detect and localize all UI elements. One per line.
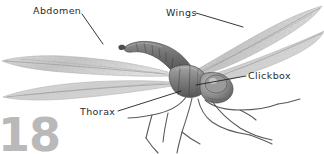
abdomen-leader [82, 14, 103, 44]
label-clickbox: Clickbox [248, 71, 291, 81]
label-wings: Wings [166, 8, 197, 18]
legs [128, 97, 300, 153]
label-abdomen: Abdomen [33, 6, 81, 16]
page-number: 18 [0, 112, 60, 154]
label-thorax: Thorax [80, 107, 115, 117]
figure-canvas: Abdomen Wings Clickbox Thorax 18 [0, 0, 324, 154]
left-wing-upper [2, 56, 168, 77]
left-wing-lower [3, 81, 172, 100]
thorax-leader [118, 91, 181, 111]
wings-leader [196, 13, 243, 27]
